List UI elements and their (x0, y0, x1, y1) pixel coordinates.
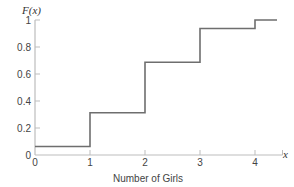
x-tick-label: 3 (197, 157, 203, 168)
x-tick-label: 0 (32, 157, 38, 168)
x-tick-label: 2 (142, 157, 148, 168)
x-axis-title: Number of Girls (113, 173, 183, 184)
y-tick-label: 0 (25, 150, 31, 161)
cdf-step-line (35, 20, 277, 147)
step-series (35, 20, 277, 147)
y-tick-label: 0.8 (17, 42, 31, 53)
y-tick-label: 1 (25, 15, 31, 26)
x-tick-label: 4 (252, 157, 258, 168)
y-tick-label: 0.4 (17, 96, 31, 107)
cdf-step-chart: 00.20.40.60.8101234 F(x) x Number of Gir… (0, 0, 294, 187)
axes (35, 20, 283, 155)
y-tick-label: 0.6 (17, 69, 31, 80)
y-axis-label: F(x) (21, 4, 41, 17)
x-tick-label: 1 (87, 157, 93, 168)
y-tick-label: 0.2 (17, 123, 31, 134)
x-axis-symbol: x (282, 148, 288, 160)
labels: F(x) x Number of Girls (21, 4, 288, 184)
ticks: 00.20.40.60.8101234 (17, 15, 258, 169)
